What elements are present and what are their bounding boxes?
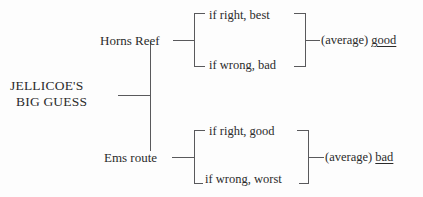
outcome-value-ems-route: bad (375, 150, 393, 164)
bracket-right-ems-route-top-tick (297, 130, 309, 131)
trunk-vertical-line (150, 42, 151, 151)
outcome-ems-route: (average) bad (325, 150, 393, 165)
branch-stub-ems-route (172, 157, 194, 158)
outcome-stub-horns-reef (305, 40, 320, 41)
root-node-label-line-1: JELLICOE'S (10, 78, 83, 93)
bracket-left-horns-reef-top-tick (194, 13, 205, 14)
outcome-value-horns-reef: good (371, 33, 396, 47)
root-connector-line (118, 95, 151, 96)
leaf-label-ems-route-if-wrong: if wrong, worst (205, 172, 282, 187)
outcome-prefix-ems-route: (average) (325, 150, 372, 164)
leaf-label-horns-reef-if-wrong: if wrong, bad (209, 58, 276, 73)
branch-label-horns-reef: Horns Reef (100, 33, 160, 48)
bracket-left-horns-reef-spine (194, 13, 195, 67)
leaf-label-ems-route-if-right: if right, good (209, 124, 275, 139)
root-node-label: JELLICOE'S BIG GUESS (10, 78, 118, 110)
bracket-left-ems-route-bottom-tick (194, 183, 203, 184)
outcome-stub-ems-route (308, 157, 324, 158)
outcome-prefix-horns-reef: (average) (321, 33, 368, 47)
bracket-left-ems-route-spine (194, 130, 195, 184)
root-node-label-line-2: BIG GUESS (10, 94, 118, 110)
bracket-right-horns-reef-top-tick (294, 13, 306, 14)
outcome-horns-reef: (average) good (321, 33, 396, 48)
branch-stub-horns-reef (173, 40, 194, 41)
bracket-left-ems-route-top-tick (194, 130, 205, 131)
leaf-label-horns-reef-if-right: if right, best (209, 8, 270, 23)
bracket-right-horns-reef-bottom-tick (294, 66, 306, 67)
branch-label-ems-route: Ems route (104, 150, 157, 165)
bracket-right-ems-route-bottom-tick (299, 183, 309, 184)
bracket-left-horns-reef-bottom-tick (194, 66, 205, 67)
diagram-canvas: JELLICOE'S BIG GUESS Horns Reef if right… (0, 0, 423, 197)
